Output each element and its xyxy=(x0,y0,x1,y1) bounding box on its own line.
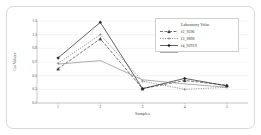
legend-line-swatch xyxy=(159,28,179,35)
line-chart: Cu Values Samples 1.31.10.90.70.50.30.1 … xyxy=(7,7,256,130)
legend-line-swatch xyxy=(159,35,179,42)
legend-item-label: f3_9898 xyxy=(179,37,195,41)
legend: Laboratory Valuef2_9596f3_9898f4_92919 xyxy=(155,18,239,52)
series-f4-92919 xyxy=(58,61,227,88)
legend-item[interactable]: f4_92919 xyxy=(159,42,235,49)
legend-item[interactable]: f3_9898 xyxy=(159,35,235,42)
legend-item-label: Laboratory Value xyxy=(179,23,210,27)
legend-item-label: f2_9596 xyxy=(179,30,195,34)
legend-line-swatch xyxy=(159,42,179,49)
figure-frame: Cu Values Samples 1.31.10.90.70.50.30.1 … xyxy=(6,6,255,129)
legend-line-swatch xyxy=(159,21,179,28)
legend-item[interactable]: Laboratory Value xyxy=(159,21,235,28)
legend-item[interactable]: f2_9596 xyxy=(159,28,235,35)
legend-item-label: f4_92919 xyxy=(179,44,197,48)
